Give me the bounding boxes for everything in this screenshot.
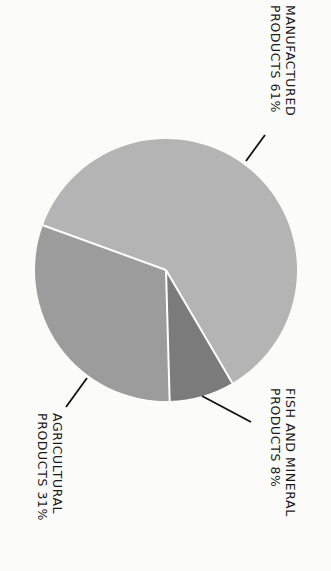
label-manufactured-line1: MANUFACTURED	[283, 5, 298, 116]
leader-line-agricultural	[66, 378, 87, 407]
label-agricultural: AGRICULTURAL PRODUCTS 31%	[35, 413, 65, 521]
label-fish-mineral-line2: PRODUCTS 8%	[268, 388, 283, 517]
label-manufactured: MANUFACTURED PRODUCTS 61%	[268, 5, 298, 116]
label-manufactured-line2: PRODUCTS 61%	[268, 5, 283, 116]
label-agricultural-line1: AGRICULTURAL	[50, 413, 65, 521]
label-fish-mineral: FISH AND MINERAL PRODUCTS 8%	[268, 388, 298, 517]
leader-line-fish-mineral	[202, 396, 251, 422]
label-fish-mineral-line1: FISH AND MINERAL	[283, 388, 298, 517]
leader-line-manufactured	[246, 135, 265, 161]
label-agricultural-line2: PRODUCTS 31%	[35, 413, 50, 521]
